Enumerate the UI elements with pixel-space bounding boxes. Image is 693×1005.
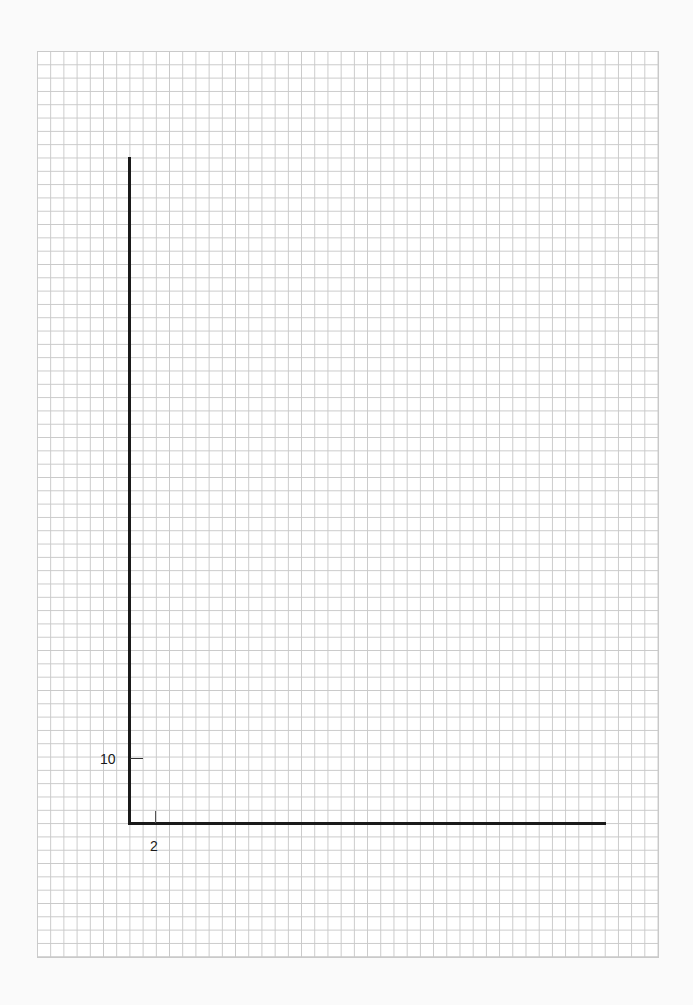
x-axis-tick-2 bbox=[155, 811, 156, 823]
y-axis-tick-10 bbox=[130, 758, 143, 759]
y-tick-label: 10 bbox=[100, 752, 116, 766]
y-axis bbox=[128, 157, 131, 825]
x-tick-label: 2 bbox=[150, 839, 158, 853]
x-axis bbox=[128, 822, 606, 825]
